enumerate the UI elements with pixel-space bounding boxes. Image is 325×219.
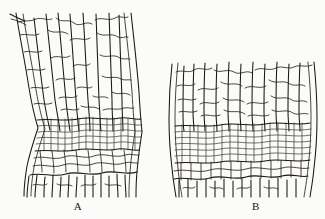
- figure-a-drawing: [10, 13, 142, 197]
- figure-b-caption: B: [246, 200, 266, 212]
- figure-a-caption: A: [68, 200, 88, 212]
- figure-plate: A B: [0, 0, 325, 219]
- illustration-canvas: [0, 0, 325, 219]
- figure-b-drawing: [169, 62, 317, 197]
